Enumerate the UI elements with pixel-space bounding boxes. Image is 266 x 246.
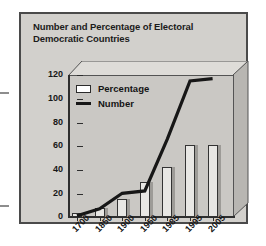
figure-frame: Number and Percentage of Electoral Democ… xyxy=(19,12,248,224)
legend-item-percentage: Percentage xyxy=(76,81,149,96)
legend-label: Number xyxy=(98,98,134,109)
bar-swatch-icon xyxy=(76,85,91,93)
line-swatch-icon xyxy=(76,102,91,106)
page-edge-mark-top xyxy=(0,92,9,94)
legend-label: Percentage xyxy=(98,83,149,94)
page-edge-mark-bottom xyxy=(0,205,9,207)
chart-legend: Percentage Number xyxy=(76,81,149,111)
legend-item-number: Number xyxy=(76,96,149,111)
plot-area: 120 100 80 60 40 20 xyxy=(54,59,250,219)
figure-page: Number and Percentage of Electoral Democ… xyxy=(0,0,266,246)
chart-title: Number and Percentage of Electoral Democ… xyxy=(33,21,233,44)
